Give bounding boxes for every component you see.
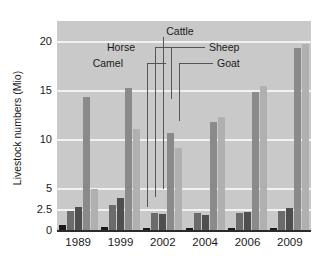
- x-tick-label-2004: 2004: [192, 236, 218, 248]
- bar-sheep-2004: [210, 122, 217, 230]
- bar-goat-2006: [260, 86, 267, 230]
- y-tick-label-10: 10: [40, 133, 52, 145]
- bar-goat-1999: [133, 129, 140, 230]
- callout-label-cattle: Cattle: [57, 25, 303, 37]
- bar-group-2009: [270, 21, 309, 230]
- plot-area: CattleHorseCamelSheepGoat: [57, 21, 311, 230]
- callout-leader-v-cattle: [163, 37, 164, 189]
- bar-horse-2006: [236, 213, 243, 230]
- x-tick-label-2006: 2006: [235, 236, 261, 248]
- y-tick-label-0: 0: [46, 224, 52, 236]
- bar-sheep-1999: [125, 88, 132, 230]
- callout-label-sheep: Sheep: [209, 41, 239, 53]
- callout-label-goat: Goat: [217, 57, 240, 69]
- x-tick-label-1999: 1999: [108, 236, 134, 248]
- bar-cattle-1989: [75, 207, 82, 230]
- callout-leader-h2-camel: [147, 63, 166, 64]
- bar-horse-1989: [67, 211, 74, 230]
- bar-cattle-2009: [286, 208, 293, 230]
- bar-sheep-1989: [83, 97, 90, 230]
- bar-sheep-2002: [167, 133, 174, 230]
- callout-leader-h2-goat: [179, 63, 213, 64]
- y-axis-tick-labels: 02.55101520: [0, 0, 56, 269]
- bar-sheep-2006: [252, 92, 259, 230]
- x-tick-label-2009: 2009: [277, 236, 303, 248]
- bar-goat-1989: [91, 189, 98, 230]
- bar-cattle-2002: [159, 214, 166, 230]
- bar-cattle-2004: [202, 215, 209, 230]
- bar-cattle-2006: [244, 212, 251, 230]
- y-tick-label-2.5: 2.5: [37, 203, 52, 215]
- callout-leader-v-goat: [179, 63, 180, 121]
- callout-label-horse: Horse: [57, 41, 135, 53]
- callout-leader-h2-sheep: [171, 47, 205, 48]
- callout-leader-v-camel: [147, 63, 148, 207]
- bar-sheep-2009: [294, 48, 301, 230]
- bar-horse-2004: [194, 213, 201, 230]
- bar-goat-2002: [175, 148, 182, 230]
- callout-label-camel: Camel: [57, 57, 123, 69]
- callout-leader-v-horse: [155, 47, 156, 197]
- bar-goat-2009: [302, 44, 309, 230]
- x-axis-tick-labels: 198919992002200420062009: [57, 233, 311, 255]
- x-tick-label-1989: 1989: [65, 236, 91, 248]
- y-tick-label-5: 5: [46, 182, 52, 194]
- bar-goat-2004: [218, 117, 225, 230]
- livestock-bar-chart: Livestock numbers (Mio) 02.55101520 Catt…: [0, 0, 316, 269]
- callout-leader-v-sheep: [171, 47, 172, 99]
- bar-horse-1999: [109, 205, 116, 230]
- bar-horse-2002: [151, 213, 158, 230]
- bar-horse-2009: [278, 211, 285, 230]
- bar-cattle-1999: [117, 198, 124, 230]
- y-tick-label-15: 15: [40, 84, 52, 96]
- x-tick-label-2002: 2002: [150, 236, 176, 248]
- x-axis-line: [57, 230, 311, 232]
- y-tick-label-20: 20: [40, 35, 52, 47]
